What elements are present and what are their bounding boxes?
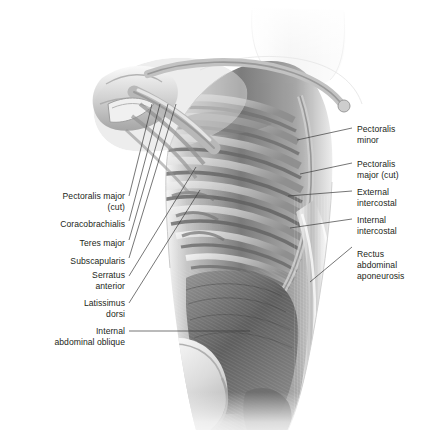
label-coracobrachialis: Coracobrachialis (30, 219, 125, 230)
label-pectoralis-minor: Pectoralis minor (357, 124, 427, 146)
label-internal-abdominal-oblique: Internal abdominal oblique (12, 326, 125, 348)
label-rectus-abdominal-aponeurosis: Rectus abdominal aponeurosis (357, 249, 427, 283)
label-pectoralis-major-cut: Pectoralis major (cut) (30, 191, 125, 213)
label-teres-major: Teres major (30, 238, 125, 249)
label-subscapularis: Subscapularis (30, 256, 125, 267)
label-latissimus-dorsi: Latissimus dorsi (30, 298, 125, 320)
label-serratus-anterior: Serratus anterior (30, 270, 125, 292)
label-internal-intercostal: Internal intercostal (357, 215, 427, 237)
anatomical-figure: Pectoralis major (cut) Coracobrachialis … (0, 0, 428, 447)
label-external-intercostal: External intercostal (357, 187, 427, 209)
label-pectoralis-major-cut-right: Pectoralis major (cut) (357, 159, 427, 181)
